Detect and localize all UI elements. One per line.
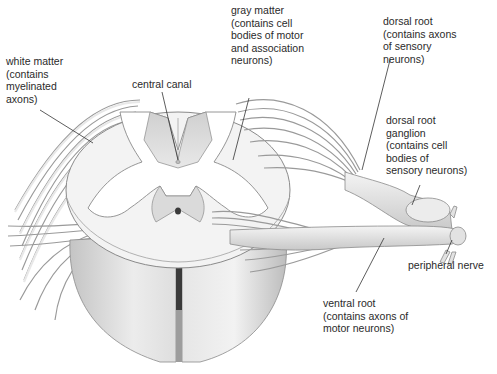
label-ventral-root: ventral root (contains axons of motor ne…: [323, 297, 408, 335]
label-dorsal-root-ganglion: dorsal root ganglion (contains cell bodi…: [386, 114, 467, 177]
label-dorsal-root: dorsal root (contains axons of sensory n…: [383, 15, 457, 65]
label-peripheral-nerve: peripheral nerve: [408, 259, 484, 272]
label-white-matter: white matter (contains myelinated axons): [6, 55, 63, 105]
label-gray-matter: gray matter (contains cell bodies of mot…: [231, 4, 304, 67]
dorsal-root-ganglion: [406, 198, 450, 222]
central-canal: [176, 160, 180, 163]
label-central-canal: central canal: [132, 78, 192, 91]
